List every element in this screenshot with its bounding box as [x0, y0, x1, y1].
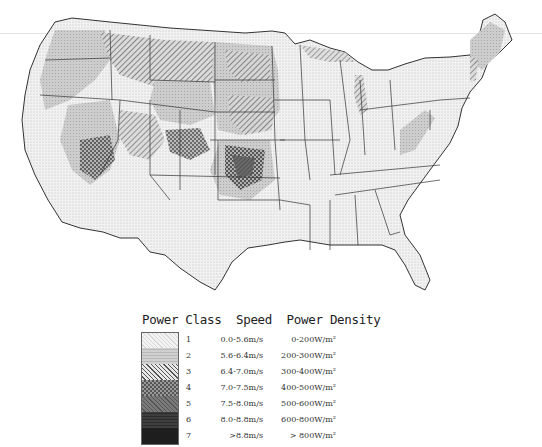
legend-header-speed: Speed	[236, 312, 272, 327]
legend-swatch-class-1	[141, 332, 179, 348]
us-wind-map	[0, 0, 542, 310]
legend-swatch-class-3	[141, 364, 179, 380]
legend-header-power-class: Power Class	[142, 312, 221, 327]
legend-speed: 6.4-7.0m/s	[203, 367, 263, 376]
legend-speed: 5.6-6.4m/s	[203, 351, 263, 360]
legend-speed: 8.0-8.8m/s	[203, 415, 263, 424]
legend-density: 300-400W/m²	[266, 367, 336, 376]
legend-speed: >8.8m/s	[203, 431, 263, 440]
legend-row-class-5: 5 7.5-8.0m/s 500-600W/m²	[141, 396, 381, 412]
legend-speed: 7.5-8.0m/s	[203, 399, 263, 408]
legend-density: 200-300W/m²	[266, 351, 336, 360]
legend-class-number: 2	[186, 351, 191, 360]
legend-class-number: 3	[186, 367, 191, 376]
legend-swatch-class-7	[141, 428, 179, 445]
legend-swatch-class-5	[141, 396, 179, 412]
legend-swatch-class-4	[141, 380, 179, 396]
legend-class-number: 6	[186, 415, 191, 424]
legend-row-class-1: 1 0.0-5.6m/s 0-200W/m²	[141, 332, 381, 348]
legend-density: > 800W/m²	[266, 431, 336, 440]
legend-header-power-density: Power Density	[287, 312, 381, 327]
legend-class-number: 5	[186, 399, 191, 408]
legend-swatch-class-6	[141, 412, 179, 428]
legend-density: 400-500W/m²	[266, 383, 336, 392]
legend-class-number: 4	[186, 383, 191, 392]
legend-speed: 0.0-5.6m/s	[203, 335, 263, 344]
legend-density: 0-200W/m²	[266, 335, 336, 344]
legend-class-number: 1	[186, 335, 191, 344]
legend-speed: 7.0-7.5m/s	[203, 383, 263, 392]
legend-row-class-4: 4 7.0-7.5m/s 400-500W/m²	[141, 380, 381, 396]
legend-row-class-7: 7 >8.8m/s > 800W/m²	[141, 428, 381, 444]
legend-row-class-6: 6 8.0-8.8m/s 600-800W/m²	[141, 412, 381, 428]
legend-density: 500-600W/m²	[266, 399, 336, 408]
legend-swatch-class-2	[141, 348, 179, 364]
legend-row-class-3: 3 6.4-7.0m/s 300-400W/m²	[141, 364, 381, 380]
legend-row-class-2: 2 5.6-6.4m/s 200-300W/m²	[141, 348, 381, 364]
legend-header: Power Class Speed Power Density	[142, 312, 380, 327]
legend-density: 600-800W/m²	[266, 415, 336, 424]
legend-class-number: 7	[186, 431, 191, 440]
